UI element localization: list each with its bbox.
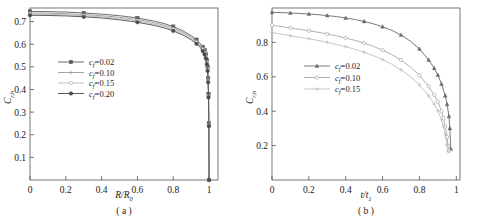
y-tick-label: 0.4: [14, 85, 26, 95]
panel-a-svg: 00.20.40.60.810.10.20.30.40.50.60.7 cf=0…: [0, 0, 242, 220]
x-tick-label: 1: [207, 185, 212, 195]
data-point-marker: [207, 96, 211, 100]
data-point-marker: [206, 80, 210, 84]
x-tick-label: 0.6: [131, 185, 143, 195]
data-point-marker: [344, 45, 348, 49]
data-point-marker: [69, 81, 72, 84]
legend-label: cf=0.15: [335, 84, 360, 95]
panel-a-caption: ( a ): [116, 206, 131, 217]
figure-container: 00.20.40.60.810.10.20.30.40.50.60.7 cf=0…: [0, 0, 484, 220]
series-line: [30, 11, 209, 180]
svg-text:Cr,h: Cr,h: [245, 91, 257, 104]
data-point-marker: [307, 37, 311, 41]
data-point-marker: [270, 24, 273, 27]
series-line: [30, 15, 209, 180]
panel-b-y-axis-title: Cr,h: [245, 91, 257, 104]
data-point-marker: [207, 124, 211, 128]
y-tick-label: 0.6: [256, 72, 268, 82]
data-point-marker: [447, 114, 451, 118]
data-point-marker: [440, 110, 443, 113]
data-point-marker: [289, 34, 293, 38]
y-tick-label: 0.1: [14, 153, 26, 163]
panel-b-svg: 00.20.40.60.810.20.40.60.8 cf=0.02cf=0.1…: [242, 0, 484, 220]
data-point-marker: [440, 82, 444, 86]
x-tick-label: 0.8: [414, 185, 426, 195]
series-c_f=0.10: [270, 24, 450, 153]
data-point-marker: [315, 76, 318, 79]
panel-b-ticks: [272, 42, 456, 180]
panel-b-legend: cf=0.02cf=0.10cf=0.15: [304, 61, 360, 95]
y-tick-label: 0.4: [256, 107, 268, 117]
data-point-marker: [315, 87, 319, 91]
data-point-marker: [362, 41, 365, 44]
legend-label: cf=0.02: [335, 61, 360, 72]
data-point-marker: [205, 62, 209, 66]
data-point-marker: [203, 53, 207, 57]
data-point-marker: [69, 71, 73, 75]
y-tick-label: 0.8: [256, 38, 268, 48]
y-tick-label: 0.3: [14, 108, 26, 118]
data-point-marker: [427, 85, 430, 88]
series-c_f=0.02: [270, 10, 453, 150]
panel-a-plot-frame: [30, 8, 218, 180]
data-point-marker: [28, 13, 32, 17]
data-point-marker: [362, 50, 366, 54]
data-point-marker: [436, 109, 440, 113]
panel-a-legend: cf=0.02cf=0.10cf=0.15cf=0.20: [58, 57, 114, 100]
legend-item[interactable]: cf=0.02: [304, 61, 360, 72]
y-tick-label: 0.5: [14, 62, 26, 72]
panel-a-ticks: [30, 22, 209, 180]
x-tick-label: 0.2: [60, 185, 72, 195]
x-tick-label: 0.2: [303, 185, 315, 195]
data-point-marker: [448, 126, 452, 130]
panel-a-y-axis-title: Cr,h: [3, 91, 15, 104]
data-point-marker: [204, 56, 208, 60]
data-point-marker: [442, 116, 445, 119]
data-point-marker: [443, 94, 447, 98]
data-point-marker: [136, 20, 140, 24]
x-tick-label: 0.8: [167, 185, 179, 195]
data-point-marker: [82, 15, 86, 19]
panel-b-x-axis-title: t/t1: [360, 190, 371, 202]
panel-b: 00.20.40.60.810.20.40.60.8 cf=0.02cf=0.1…: [242, 0, 484, 220]
data-point-marker: [195, 42, 199, 46]
series-c_f=0.10: [28, 11, 211, 182]
x-tick-label: 0.4: [96, 185, 108, 195]
y-tick-label: 0.7: [14, 17, 26, 27]
legend-item[interactable]: cf=0.20: [58, 89, 114, 100]
x-tick-label: 0.6: [377, 185, 389, 195]
y-tick-label: 0.6: [14, 40, 26, 50]
data-point-marker: [270, 31, 274, 35]
data-point-marker: [69, 92, 73, 96]
data-point-marker: [307, 29, 310, 32]
data-point-marker: [201, 49, 205, 53]
x-tick-label: 1: [454, 185, 459, 195]
data-point-marker: [325, 41, 329, 45]
x-tick-label: 0: [270, 185, 275, 195]
data-point-marker: [69, 60, 72, 63]
data-point-marker: [207, 178, 211, 182]
series-c_f=0.15: [28, 12, 210, 181]
series-line: [30, 13, 209, 180]
data-point-marker: [381, 58, 385, 62]
legend-item[interactable]: cf=0.15: [304, 84, 360, 95]
data-point-marker: [418, 74, 421, 77]
data-point-marker: [381, 48, 384, 51]
y-tick-label: 0.2: [14, 130, 26, 140]
data-point-marker: [445, 102, 449, 106]
svg-text:Cr,h: Cr,h: [3, 91, 15, 104]
data-point-marker: [171, 29, 175, 33]
panel-a-curves: [28, 10, 211, 182]
y-tick-label: 0.2: [256, 141, 268, 151]
data-point-marker: [289, 26, 292, 29]
panel-b-plot-frame: [272, 8, 460, 180]
legend-item[interactable]: cf=0.10: [304, 73, 360, 84]
legend-label: cf=0.10: [335, 73, 360, 84]
series-line: [30, 14, 209, 180]
data-point-marker: [206, 69, 210, 73]
panel-a: 00.20.40.60.810.10.20.30.40.50.60.7 cf=0…: [0, 0, 242, 220]
x-tick-label: 0: [28, 185, 33, 195]
data-point-marker: [432, 93, 435, 96]
legend-label: cf=0.20: [89, 89, 114, 100]
data-point-marker: [326, 32, 329, 35]
